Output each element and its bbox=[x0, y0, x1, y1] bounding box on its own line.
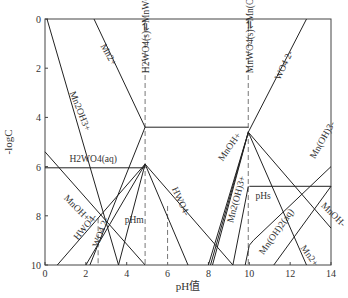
annotation-label: H2WO4(aq) bbox=[70, 154, 117, 165]
annotation-label: MnOH- bbox=[319, 200, 347, 228]
annotation-label: pHs bbox=[255, 191, 271, 201]
annotation-label: Mn2OH3+ bbox=[68, 90, 93, 132]
annotation-label: pHm bbox=[125, 215, 145, 225]
x-tick-label: 0 bbox=[43, 268, 48, 279]
annotation-label: Mn2+ bbox=[98, 42, 118, 67]
x-tick-label: 4 bbox=[124, 268, 129, 279]
annotation-label: H2WO4(s)⇌MnWO4(s) bbox=[141, 0, 152, 73]
x-tick-label: 8 bbox=[206, 268, 211, 279]
y-tick-label: 8 bbox=[36, 211, 41, 222]
log-concentration-ph-diagram: 024681012140246810 Mn2+Mn2OH3+H2WO4(s)⇌M… bbox=[0, 0, 348, 298]
x-tick-label: 14 bbox=[326, 268, 336, 279]
annotation-label: HWO4- bbox=[170, 185, 192, 217]
x-tick-label: 6 bbox=[165, 268, 170, 279]
annotation-label: Mn2(OH)3+ bbox=[225, 175, 248, 224]
y-axis-label: -logC bbox=[2, 129, 14, 154]
series-line-mn2-left- bbox=[94, 19, 145, 127]
y-tick-label: 0 bbox=[36, 14, 41, 25]
y-tick-label: 4 bbox=[36, 112, 41, 123]
series-line-mnoh-left- bbox=[45, 152, 145, 265]
annotation-label: MnOH+ bbox=[216, 131, 243, 163]
annotation-label: Mn(OH)3- bbox=[308, 120, 338, 161]
x-tick-label: 12 bbox=[285, 268, 295, 279]
annotations: Mn2+Mn2OH3+H2WO4(s)⇌MnWO4(s)MnWO4(s)⇌Mn(… bbox=[62, 0, 348, 268]
annotation-label: MnWO4(s)⇌Mn(OH)2(s) bbox=[245, 0, 256, 73]
series-line-hwo4-dashed-right2 bbox=[145, 164, 233, 265]
x-axis-label: pH值 bbox=[176, 280, 200, 292]
x-tick-label: 2 bbox=[83, 268, 88, 279]
y-tick-label: 10 bbox=[31, 260, 41, 271]
y-tick-label: 2 bbox=[36, 63, 41, 74]
annotation-label: WO4 2- bbox=[273, 49, 295, 81]
x-tick-label: 10 bbox=[244, 268, 254, 279]
y-tick-label: 6 bbox=[36, 162, 41, 173]
